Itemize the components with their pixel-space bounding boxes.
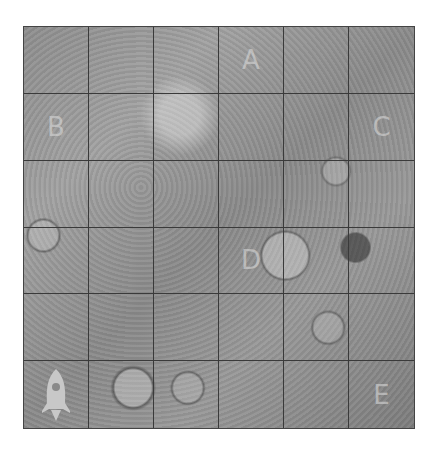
cell-label: [349, 294, 414, 360]
grid-cell-r2-c5[interactable]: [349, 161, 414, 228]
cell-label: [24, 27, 88, 93]
grid-cell-r0-c2[interactable]: [154, 27, 219, 94]
grid-cell-r2-c0[interactable]: [24, 161, 89, 228]
cell-label: [284, 361, 348, 428]
cell-label: A: [219, 27, 283, 93]
cell-label: [219, 161, 283, 227]
grid-cell-r4-c0[interactable]: [24, 294, 89, 361]
cell-label: [89, 27, 153, 93]
cell-label: [284, 228, 348, 294]
cell-label: [219, 361, 283, 428]
cell-label: B: [24, 94, 88, 160]
grid-cell-r1-c0[interactable]: B: [24, 94, 89, 161]
cell-label: [219, 294, 283, 360]
grid-cell-r5-c5[interactable]: E: [349, 361, 414, 428]
cell-label: [154, 294, 218, 360]
cell-label: [284, 27, 348, 93]
cell-label: [89, 228, 153, 294]
cell-label: [284, 294, 348, 360]
grid-cell-r3-c0[interactable]: [24, 228, 89, 295]
cell-label: [349, 27, 414, 93]
grid-cell-r3-c3[interactable]: D: [219, 228, 284, 295]
cell-label: [154, 228, 218, 294]
cell-label: [24, 228, 88, 294]
grid-cell-r4-c3[interactable]: [219, 294, 284, 361]
grid-cell-r2-c4[interactable]: [284, 161, 349, 228]
grid-cell-r4-c1[interactable]: [89, 294, 154, 361]
grid-cell-r3-c1[interactable]: [89, 228, 154, 295]
cell-label: [89, 294, 153, 360]
grid-cell-r1-c5[interactable]: C: [349, 94, 414, 161]
game-board: ABCDE: [24, 27, 414, 428]
grid-cell-r2-c2[interactable]: [154, 161, 219, 228]
cell-label: [154, 361, 218, 428]
cell-label: [349, 161, 414, 227]
grid-cell-r0-c4[interactable]: [284, 27, 349, 94]
grid-cell-r5-c2[interactable]: [154, 361, 219, 428]
grid-cell-r0-c0[interactable]: [24, 27, 89, 94]
cell-label: [349, 228, 414, 294]
grid-cell-r5-c1[interactable]: [89, 361, 154, 428]
cell-label: [154, 27, 218, 93]
cell-label: [154, 94, 218, 160]
grid-cell-r2-c3[interactable]: [219, 161, 284, 228]
grid-cell-r1-c4[interactable]: [284, 94, 349, 161]
cell-label: E: [349, 361, 414, 428]
grid-cell-r0-c3[interactable]: A: [219, 27, 284, 94]
cell-label: [89, 361, 153, 428]
grid-cell-r5-c3[interactable]: [219, 361, 284, 428]
grid-cell-r3-c5[interactable]: [349, 228, 414, 295]
grid-cell-r0-c1[interactable]: [89, 27, 154, 94]
grid-cell-r5-c0[interactable]: [24, 361, 89, 428]
grid-cell-r2-c1[interactable]: [89, 161, 154, 228]
grid-cell-r0-c5[interactable]: [349, 27, 414, 94]
cell-label: [154, 161, 218, 227]
grid-cell-r1-c3[interactable]: [219, 94, 284, 161]
cell-label: [24, 294, 88, 360]
grid-cell-r4-c5[interactable]: [349, 294, 414, 361]
grid-cell-r1-c2[interactable]: [154, 94, 219, 161]
cell-label: [219, 94, 283, 160]
cell-label: C: [349, 94, 414, 160]
grid-cell-r4-c4[interactable]: [284, 294, 349, 361]
board-grid: ABCDE: [24, 27, 414, 428]
grid-cell-r4-c2[interactable]: [154, 294, 219, 361]
grid-cell-r1-c1[interactable]: [89, 94, 154, 161]
cell-label: [284, 161, 348, 227]
cell-label: [89, 94, 153, 160]
grid-cell-r5-c4[interactable]: [284, 361, 349, 428]
cell-label: D: [219, 228, 283, 294]
grid-cell-r3-c2[interactable]: [154, 228, 219, 295]
cell-label: [24, 161, 88, 227]
cell-label: [89, 161, 153, 227]
cell-label: [284, 94, 348, 160]
grid-cell-r3-c4[interactable]: [284, 228, 349, 295]
